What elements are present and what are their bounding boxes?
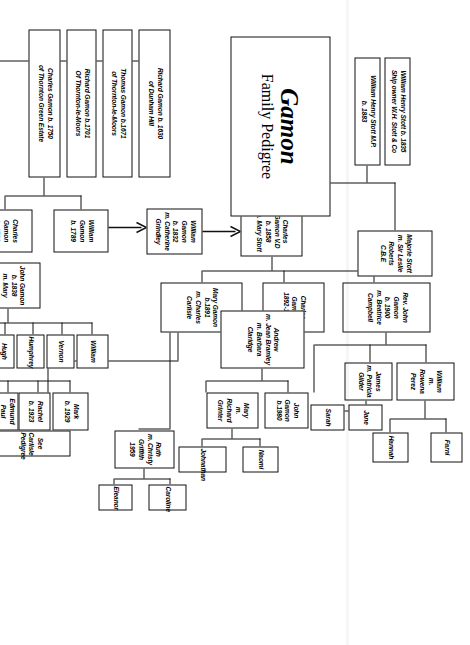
connector bbox=[61, 322, 62, 334]
node-eleanor: Eleanor bbox=[98, 484, 132, 510]
node-richard-gamon-1630: Richard Gamon b. 1630 of Dunham Hill bbox=[138, 29, 170, 177]
connector bbox=[169, 332, 170, 428]
connector bbox=[261, 368, 262, 380]
node-edmund-paul-1922: Edmund Paul b. 1922 bbox=[0, 392, 18, 430]
connector bbox=[177, 332, 178, 360]
connector bbox=[425, 344, 426, 362]
connector bbox=[114, 478, 170, 479]
connector bbox=[113, 478, 114, 484]
connector bbox=[202, 438, 260, 439]
connector bbox=[231, 428, 232, 438]
node-humphrey: Humphrey bbox=[16, 334, 44, 368]
node-charles-gamon-1783: Charles Gamon h. 1783 bbox=[0, 209, 32, 252]
node-farni: Farni bbox=[430, 432, 462, 462]
connector bbox=[445, 418, 446, 432]
connector bbox=[7, 380, 8, 392]
title-surname: Gamon bbox=[277, 88, 302, 164]
connector bbox=[313, 344, 314, 392]
connector bbox=[0, 380, 70, 381]
pedigree-canvas: Gamon Family Pedigree Richard Gamon b. 1… bbox=[0, 0, 470, 645]
node-hugh: Hugh bbox=[0, 334, 14, 368]
node-see-carlisle-pedigree: See Carlisle Pedigree bbox=[0, 430, 70, 456]
node-jane: Jane bbox=[348, 404, 382, 430]
connector bbox=[206, 380, 288, 381]
node-thomas-gamon-1671: Thomas Gamon b.1671 of Thornton-le-Moors bbox=[102, 29, 132, 177]
connector bbox=[143, 468, 144, 478]
node-caroline: Caroline bbox=[148, 484, 186, 510]
node-charles-gamon-1750: Charles Gamon b. 1750 of Thornton Green … bbox=[28, 29, 60, 177]
ancestry-arrow bbox=[200, 224, 242, 238]
connector bbox=[91, 322, 92, 334]
node-wh-stott-1835: William Henry Stott b. 1835 Ship owner W… bbox=[384, 57, 410, 165]
connector bbox=[201, 438, 202, 446]
node-mark-1929: Mark b. 1929 bbox=[52, 392, 88, 430]
connector bbox=[390, 418, 446, 419]
connector bbox=[283, 270, 284, 282]
connector bbox=[7, 308, 8, 322]
connector bbox=[32, 322, 33, 334]
node-john-gamon-1980: John Gamon b.1980 bbox=[264, 392, 308, 428]
connector bbox=[80, 195, 81, 209]
node-william-rowena: William m. Rowena Perez bbox=[396, 362, 454, 400]
connector bbox=[202, 270, 374, 271]
connector bbox=[385, 332, 386, 344]
node-sarah: Sarah bbox=[310, 404, 344, 430]
connector bbox=[287, 380, 288, 392]
node-rachel-1923: Rachel b. 1923 bbox=[18, 392, 50, 430]
page-title: Gamon Family Pedigree bbox=[230, 36, 330, 216]
connector bbox=[169, 478, 170, 484]
connector bbox=[424, 400, 425, 418]
node-william-gamon-1832: William Gamon b. 1832 m. Catherine Grind… bbox=[146, 208, 202, 254]
node-andrew: Andrew m. Jean Bramley m. Barbara Clarid… bbox=[220, 310, 304, 368]
node-ruth: Ruth m. Christy Griffith 1959 bbox=[114, 430, 174, 468]
connector bbox=[394, 182, 395, 230]
node-johnathan: Johnathan bbox=[178, 446, 226, 472]
connector bbox=[389, 418, 390, 432]
connector bbox=[37, 380, 38, 392]
connector bbox=[366, 165, 367, 182]
connector bbox=[201, 270, 202, 282]
node-john-gamon-1838: John Gamon b. 1838 m. Mary Vernon bbox=[0, 262, 40, 308]
connector bbox=[205, 380, 206, 392]
node-william-gamon-1789: William Gamon b. 1789 bbox=[53, 209, 108, 252]
node-majorie-stott: Majorie Stott m. Sir Leslie Roberts C.B.… bbox=[357, 230, 432, 276]
connector bbox=[259, 438, 260, 446]
connector bbox=[4, 195, 5, 209]
node-hannah: Hannah bbox=[372, 432, 408, 462]
node-rev-john-gamon-1900: Rev. John Gamon b. 1900 m. Beatrice Camp… bbox=[342, 282, 430, 332]
connector bbox=[369, 344, 370, 362]
ancestry-arrow bbox=[106, 220, 148, 234]
node-james-patricia: James m. Patricia Gilder bbox=[344, 362, 392, 400]
title-subtitle: Family Pedigree bbox=[259, 73, 275, 178]
connector bbox=[0, 322, 92, 323]
node-mary-grinter: Mary m. Richard Grinter bbox=[206, 392, 258, 428]
connector bbox=[271, 256, 272, 270]
node-wh-stott-mp: William Henry Stott M.P. b. 1883 bbox=[354, 57, 380, 165]
connector bbox=[4, 322, 5, 334]
connector bbox=[69, 380, 70, 392]
node-naomi: Naomi bbox=[242, 446, 278, 472]
connector bbox=[5, 195, 81, 196]
connector bbox=[138, 428, 170, 429]
connector bbox=[43, 177, 44, 195]
pedigree-page: Gamon Family Pedigree Richard Gamon b. 1… bbox=[0, 0, 470, 645]
node-vernon: Vernon bbox=[46, 334, 74, 368]
rotated-diagram: Gamon Family Pedigree Richard Gamon b. 1… bbox=[0, 0, 470, 645]
node-richard-gamon-1701: Richard Gamon b.1701 Of Thornton-le-Moor… bbox=[66, 29, 96, 177]
node-william-child: William bbox=[76, 334, 108, 368]
